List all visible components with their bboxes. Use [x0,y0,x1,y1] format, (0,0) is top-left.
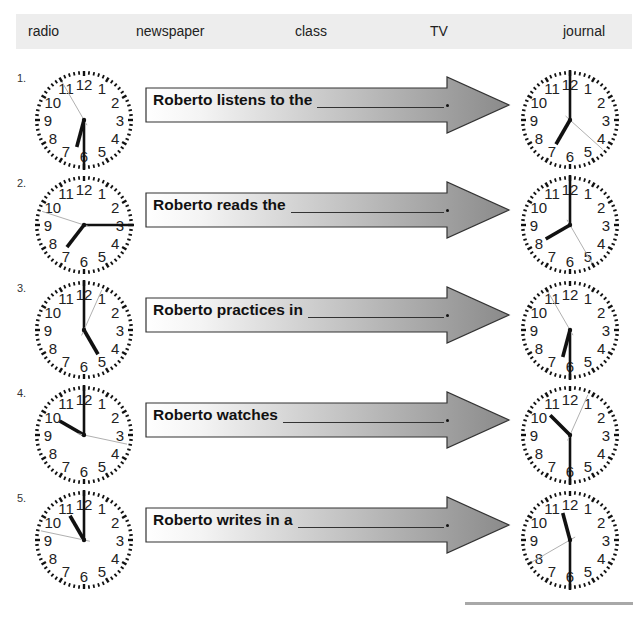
svg-text:2: 2 [597,514,605,531]
exercise-sentence: Roberto listens to the [153,91,312,109]
svg-text:2: 2 [111,409,119,426]
svg-text:7: 7 [62,248,70,265]
svg-text:1: 1 [98,500,106,517]
svg-text:6: 6 [80,358,88,375]
svg-text:7: 7 [548,353,556,370]
start-clock-icon: 123456789101112 [32,383,136,487]
exercise-sentence: Roberto practices in [153,301,303,319]
svg-text:5: 5 [584,458,592,475]
svg-text:7: 7 [548,248,556,265]
start-clock-icon: 123456789101112 [32,173,136,277]
svg-text:9: 9 [44,217,52,234]
svg-text:4: 4 [111,445,119,462]
svg-text:2: 2 [111,94,119,111]
svg-text:8: 8 [49,130,57,147]
svg-text:9: 9 [44,532,52,549]
svg-text:6: 6 [80,463,88,480]
svg-text:7: 7 [548,143,556,160]
svg-text:1: 1 [98,395,106,412]
exercise-row: 4.123456789101112 Roberto watches1234567… [0,381,640,486]
svg-text:9: 9 [530,322,538,339]
exercise-number: 1. [17,72,26,84]
svg-text:3: 3 [602,217,610,234]
svg-text:6: 6 [566,253,574,270]
svg-text:3: 3 [602,112,610,129]
svg-text:4: 4 [111,550,119,567]
end-clock-icon: 123456789101112 [518,173,622,277]
answer-blank[interactable] [298,527,444,528]
answer-blank[interactable] [283,422,444,423]
answer-blank[interactable] [291,212,444,213]
start-clock-icon: 123456789101112 [32,488,136,592]
svg-text:3: 3 [602,322,610,339]
exercise-sentence: Roberto writes in a [153,511,293,529]
svg-text:1: 1 [98,290,106,307]
svg-text:2: 2 [597,409,605,426]
exercise-row: 2.123456789101112 Roberto reads the12345… [0,171,640,276]
svg-text:12: 12 [562,391,579,408]
end-clock-icon: 123456789101112 [518,383,622,487]
svg-text:8: 8 [535,340,543,357]
answer-blank[interactable] [308,317,444,318]
svg-text:5: 5 [98,353,106,370]
svg-text:3: 3 [116,427,124,444]
svg-text:5: 5 [584,563,592,580]
svg-text:12: 12 [562,496,579,513]
svg-text:1: 1 [584,500,592,517]
word-bank-item: class [295,23,327,39]
svg-text:11: 11 [544,500,560,517]
svg-text:8: 8 [49,340,57,357]
svg-text:11: 11 [58,395,74,412]
word-bank-item: TV [430,23,448,39]
svg-text:3: 3 [116,112,124,129]
svg-text:8: 8 [49,235,57,252]
svg-text:1: 1 [98,80,106,97]
end-clock-icon: 123456789101112 [518,278,622,382]
svg-text:3: 3 [602,427,610,444]
svg-text:8: 8 [49,550,57,567]
exercise-row: 3.123456789101112 Roberto practices in12… [0,276,640,381]
svg-text:5: 5 [584,143,592,160]
svg-text:4: 4 [597,235,605,252]
word-bank-item: journal [563,23,605,39]
svg-text:2: 2 [597,199,605,216]
svg-text:4: 4 [597,550,605,567]
exercise-row: 1.123456789101112 Roberto listens to the… [0,66,640,171]
svg-text:4: 4 [111,340,119,357]
exercise-sentence: Roberto reads the [153,196,286,214]
end-clock-icon: 123456789101112 [518,488,622,592]
svg-text:4: 4 [597,340,605,357]
sentence-period [446,104,449,107]
exercise-number: 5. [17,492,26,504]
footer-divider [465,602,633,605]
svg-text:2: 2 [597,304,605,321]
svg-text:9: 9 [530,217,538,234]
svg-text:11: 11 [544,185,560,202]
svg-text:11: 11 [58,500,74,517]
svg-text:5: 5 [98,248,106,265]
answer-blank[interactable] [317,107,444,108]
svg-text:3: 3 [116,532,124,549]
svg-text:11: 11 [544,395,560,412]
svg-text:1: 1 [584,80,592,97]
svg-text:3: 3 [602,532,610,549]
svg-text:8: 8 [535,445,543,462]
svg-text:2: 2 [597,94,605,111]
svg-text:4: 4 [111,130,119,147]
svg-text:11: 11 [544,80,560,97]
svg-text:12: 12 [76,76,93,93]
svg-text:9: 9 [530,427,538,444]
start-clock-icon: 123456789101112 [32,278,136,382]
svg-text:2: 2 [111,199,119,216]
svg-text:5: 5 [98,563,106,580]
svg-text:11: 11 [58,185,74,202]
end-clock-icon: 123456789101112 [518,68,622,172]
svg-text:4: 4 [597,445,605,462]
svg-text:7: 7 [62,143,70,160]
svg-text:8: 8 [535,130,543,147]
svg-text:4: 4 [111,235,119,252]
svg-text:12: 12 [562,286,579,303]
svg-text:9: 9 [530,112,538,129]
sentence-period [446,209,449,212]
svg-text:4: 4 [597,130,605,147]
